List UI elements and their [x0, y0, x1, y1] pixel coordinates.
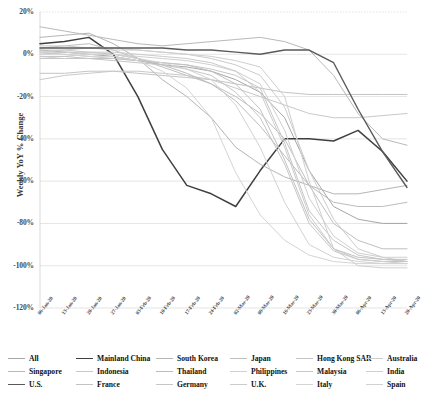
- legend-line-swatch: [366, 358, 383, 359]
- legend-item-malaysia[interactable]: Malaysia: [296, 365, 347, 378]
- legend-row: U.S.FranceGermanyU.K.ItalySpain: [8, 378, 408, 391]
- legend-line-swatch: [8, 384, 25, 385]
- legend-label: Malaysia: [317, 365, 347, 378]
- legend-line-swatch: [156, 371, 173, 372]
- legend-line-swatch: [296, 358, 313, 359]
- legend-item-thailand[interactable]: Thailand: [156, 365, 207, 378]
- series-line: [40, 48, 407, 262]
- legend-line-swatch: [230, 384, 247, 385]
- legend-item-u-s[interactable]: U.S.: [8, 378, 43, 391]
- legend-line-swatch: [8, 358, 25, 359]
- legend-line-swatch: [8, 371, 25, 372]
- legend-label: South Korea: [177, 352, 218, 365]
- legend-line-swatch: [230, 371, 247, 372]
- series-line: [40, 46, 407, 268]
- series-line: [40, 54, 407, 257]
- series-line: [40, 59, 407, 262]
- legend-item-spain[interactable]: Spain: [366, 378, 406, 391]
- legend-label: Italy: [317, 378, 332, 391]
- legend-item-singapore[interactable]: Singapore: [8, 365, 62, 378]
- legend-item-italy[interactable]: Italy: [296, 378, 332, 391]
- legend-line-swatch: [156, 384, 173, 385]
- legend-item-india[interactable]: India: [366, 365, 404, 378]
- legend-label: All: [29, 352, 39, 365]
- legend-item-australia[interactable]: Australia: [366, 352, 417, 365]
- legend-label: Hong Kong SAR: [317, 352, 371, 365]
- legend-line-swatch: [76, 358, 93, 359]
- legend-label: Mainland China: [97, 352, 150, 365]
- legend-line-swatch: [366, 384, 383, 385]
- legend-item-south-korea[interactable]: South Korea: [156, 352, 218, 365]
- legend-line-swatch: [296, 384, 313, 385]
- legend-item-mainland-china[interactable]: Mainland China: [76, 352, 150, 365]
- series-line: [40, 54, 407, 263]
- legend-item-indonesia[interactable]: Indonesia: [76, 365, 129, 378]
- series-line: [40, 56, 407, 259]
- legend-line-swatch: [76, 371, 93, 372]
- legend-item-france[interactable]: France: [76, 378, 120, 391]
- legend-line-swatch: [230, 358, 247, 359]
- legend-label: France: [97, 378, 120, 391]
- legend-item-all[interactable]: All: [8, 352, 39, 365]
- legend-row: SingaporeIndonesiaThailandPhilippinesMal…: [8, 365, 408, 378]
- series-line: [40, 50, 407, 223]
- legend-label: Thailand: [177, 365, 207, 378]
- legend-line-swatch: [366, 371, 383, 372]
- legend-label: Australia: [387, 352, 417, 365]
- legend-line-swatch: [76, 384, 93, 385]
- legend-item-germany[interactable]: Germany: [156, 378, 208, 391]
- legend-label: Philippines: [251, 365, 287, 378]
- legend-line-swatch: [156, 358, 173, 359]
- legend-line-swatch: [296, 371, 313, 372]
- legend-label: Japan: [251, 352, 271, 365]
- legend-item-u-k[interactable]: U.K.: [230, 378, 266, 391]
- legend-label: Spain: [387, 378, 406, 391]
- series-line: [40, 27, 407, 145]
- legend-label: Singapore: [29, 365, 62, 378]
- legend-label: Indonesia: [97, 365, 129, 378]
- legend-item-hong-kong-sar[interactable]: Hong Kong SAR: [296, 352, 371, 365]
- series-line: [40, 71, 407, 94]
- legend-row: AllMainland ChinaSouth KoreaJapanHong Ko…: [8, 352, 408, 365]
- legend-item-japan[interactable]: Japan: [230, 352, 271, 365]
- legend-item-philippines[interactable]: Philippines: [230, 365, 287, 378]
- legend-label: India: [387, 365, 404, 378]
- chart-legend: AllMainland ChinaSouth KoreaJapanHong Ko…: [8, 352, 408, 394]
- legend-label: U.K.: [251, 378, 266, 391]
- legend-label: U.S.: [29, 378, 43, 391]
- legend-label: Germany: [177, 378, 208, 391]
